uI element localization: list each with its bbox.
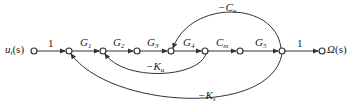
node-6 xyxy=(237,48,243,54)
output-label: Ω(s) xyxy=(327,44,347,55)
gain-label-0: 1 xyxy=(48,38,54,49)
feedback-label-ks: −Ks xyxy=(198,90,216,103)
input-label: ui(s) xyxy=(5,44,24,57)
node-8 xyxy=(319,48,325,54)
node-3 xyxy=(134,48,140,54)
gain-label-g1: G1 xyxy=(80,37,91,50)
signal-flow-graph xyxy=(0,0,359,112)
gain-label-g4: G4 xyxy=(183,37,194,50)
gain-label-cm: Cm xyxy=(216,37,228,50)
feedback-label-ca: −Ca xyxy=(218,2,236,15)
node-1 xyxy=(66,48,72,54)
node-7 xyxy=(279,48,285,54)
gain-label-7: 1 xyxy=(297,38,303,49)
feedback-ks xyxy=(71,54,282,98)
gain-label-g2: G2 xyxy=(113,37,124,50)
feedback-label-ka: −Ka xyxy=(146,61,164,74)
gain-label-g5: G5 xyxy=(255,37,266,50)
node-2 xyxy=(100,48,106,54)
gain-label-g3: G3 xyxy=(147,37,158,50)
node-0 xyxy=(31,48,37,54)
node-5 xyxy=(202,48,208,54)
node-4 xyxy=(168,48,174,54)
